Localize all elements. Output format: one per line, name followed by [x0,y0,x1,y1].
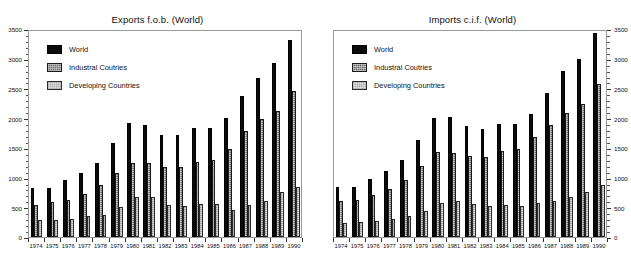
y-minor-tick [607,161,610,162]
x-tick-label: 1983 [480,243,493,249]
x-tick-mark [238,238,239,242]
y-minor-tick [607,113,610,114]
y-tick-label: 1000 [8,175,22,182]
y-minor-tick [607,42,610,43]
x-tick-label: 1977 [383,243,396,249]
bar-developing-1974 [38,220,42,237]
bar-developing-1986 [537,203,541,237]
bar-developing-1982 [167,205,171,237]
exports-panel: Exports f.o.b. (World) (In billions of U… [0,0,315,271]
y-minor-tick [607,155,610,156]
bar-group [272,31,285,237]
x-tick-label: 1983 [175,243,188,249]
x-tick-mark [92,238,93,242]
x-tick-mark [205,238,206,242]
y-tick-label: 2000 [8,116,22,123]
x-tick-label: 1976 [367,243,380,249]
y-minor-tick [607,72,610,73]
x-tick-label: 1986 [528,243,541,249]
x-tick-mark [526,238,527,242]
x-tick-label: 1978 [399,243,412,249]
bar-group [256,31,269,237]
x-tick-label: 1978 [94,243,107,249]
bar-developing-1980 [135,197,139,237]
y-tick-mark [607,30,611,31]
bar-group [545,31,558,237]
y-tick-label: 500 [614,205,624,212]
legend-label-world: World [374,45,393,54]
x-tick-mark [302,238,303,242]
x-tick-label: 1982 [464,243,477,249]
y-minor-tick [607,131,610,132]
y-minor-tick [607,143,610,144]
bar-developing-1990 [601,185,605,237]
bar-developing-1990 [296,187,300,237]
dark-hatch-swatch-icon [352,63,367,72]
imports-panel: Imports c.i.f. (World) (In billions of U… [315,0,630,271]
bar-developing-1974 [343,223,347,237]
y-minor-tick [607,78,610,79]
x-tick-mark [349,238,350,242]
bar-group [208,31,221,237]
x-tick-label: 1985 [512,243,525,249]
bar-developing-1981 [151,197,155,237]
bar-developing-1976 [70,219,74,237]
light-hatch-swatch-icon [47,81,62,90]
x-tick-mark [607,238,608,242]
x-tick-label: 1987 [544,243,557,249]
y-tick-label: 0 [19,234,22,241]
x-tick-label: 1990 [592,243,605,249]
legend-label-developing: Developing Countries [69,81,140,90]
y-minor-tick [607,202,610,203]
x-tick-label: 1979 [415,243,428,249]
x-tick-mark [333,238,334,242]
y-tick-label: 3500 [614,26,628,33]
legend-item-developing: Developing Countries [47,79,140,91]
y-minor-tick [607,173,610,174]
x-tick-mark [494,238,495,242]
legend-label-industrial: Industral Coutries [69,63,127,72]
bar-group [31,31,44,237]
bar-developing-1982 [472,204,476,237]
bar-group [176,31,189,237]
y-minor-tick [607,220,610,221]
imports-plot-area: World Industral Coutries Developing Coun… [333,30,607,238]
x-tick-label: 1974 [335,243,348,249]
imports-legend: World Industral Coutries Developing Coun… [352,43,445,97]
x-tick-mark [510,238,511,242]
y-minor-tick [607,232,610,233]
y-tick-mark [607,60,611,61]
x-tick-label: 1976 [62,243,75,249]
x-tick-mark [414,238,415,242]
x-tick-label: 1988 [255,243,268,249]
y-tick-label: 3000 [614,56,628,63]
x-tick-mark [381,238,382,242]
y-minor-tick [607,214,610,215]
y-tick-label: 1500 [614,145,628,152]
solid-black-swatch-icon [47,45,62,54]
bar-group [593,31,606,237]
y-minor-tick [607,66,610,67]
bar-group [288,31,301,237]
bar-developing-1987 [248,205,252,237]
legend-item-world: World [47,43,140,55]
x-tick-label: 1988 [560,243,573,249]
bar-developing-1978 [103,215,107,237]
x-tick-label: 1979 [110,243,123,249]
x-tick-label: 1986 [223,243,236,249]
x-tick-label: 1990 [287,243,300,249]
bar-developing-1977 [392,219,396,237]
x-tick-mark [365,238,366,242]
bar-developing-1976 [375,221,379,237]
x-tick-label: 1977 [78,243,91,249]
dual-bar-chart-figure: Exports f.o.b. (World) (In billions of U… [0,0,631,271]
x-tick-mark [76,238,77,242]
exports-y-axis: 0500100015002000250030003500 [2,30,28,238]
bar-developing-1981 [456,201,460,237]
x-tick-label: 1987 [239,243,252,249]
legend-label-developing: Developing Countries [374,81,445,90]
bar-group [224,31,237,237]
y-minor-tick [607,125,610,126]
x-tick-mark [543,238,544,242]
x-tick-label: 1980 [431,243,444,249]
